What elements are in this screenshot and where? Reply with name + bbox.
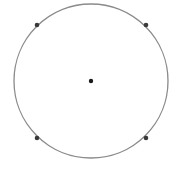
- geometry-diagram: [0, 0, 181, 178]
- point-top-right: [144, 23, 149, 28]
- point-bottom-right: [144, 136, 149, 141]
- point-bottom-left: [35, 136, 40, 141]
- center-point: [89, 79, 93, 83]
- point-top-left: [35, 23, 40, 28]
- background: [0, 0, 181, 178]
